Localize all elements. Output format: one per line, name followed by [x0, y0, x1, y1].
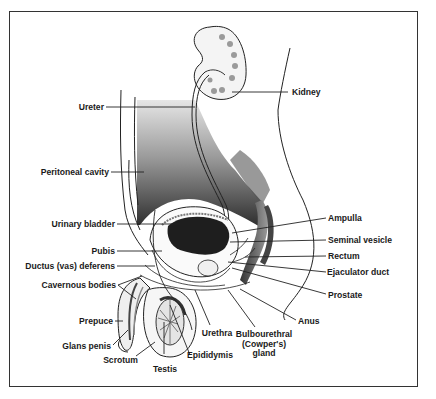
label-kidney: Kidney [292, 87, 321, 97]
label-pubis: Pubis [40, 246, 115, 256]
scrotum-testis-shape [144, 288, 197, 357]
label-seminal-vesicle: Seminal vesicle [328, 235, 392, 245]
label-bulbourethral-gland: Bulbourethral (Cowper's) gland [233, 330, 295, 359]
label-urinary-bladder: Urinary bladder [20, 219, 115, 229]
label-ejaculator-duct: Ejaculator duct [327, 267, 389, 277]
label-ampulla: Ampulla [328, 213, 362, 223]
label-anus: Anus [298, 316, 319, 326]
kidney-shape [194, 26, 246, 99]
label-testis: Testis [145, 364, 185, 374]
label-rectum: Rectum [328, 251, 360, 261]
label-peritoneal-cavity: Peritoneal cavity [20, 167, 109, 177]
label-glans-penis: Glans penis [30, 341, 111, 351]
label-line: gland [233, 349, 295, 359]
label-prostate: Prostate [328, 290, 362, 300]
urinary-bladder-shape [150, 207, 238, 277]
label-ureter: Ureter [40, 102, 104, 112]
label-scrotum: Scrotum [90, 355, 138, 365]
anatomy-illustration [0, 0, 436, 399]
label-epididymis: Epididymis [180, 350, 240, 360]
label-cavernous-bodies: Cavernous bodies [20, 280, 116, 290]
label-prepuce: Prepuce [40, 316, 113, 326]
label-ductus-deferens: Ductus (vas) deferens [10, 261, 115, 271]
